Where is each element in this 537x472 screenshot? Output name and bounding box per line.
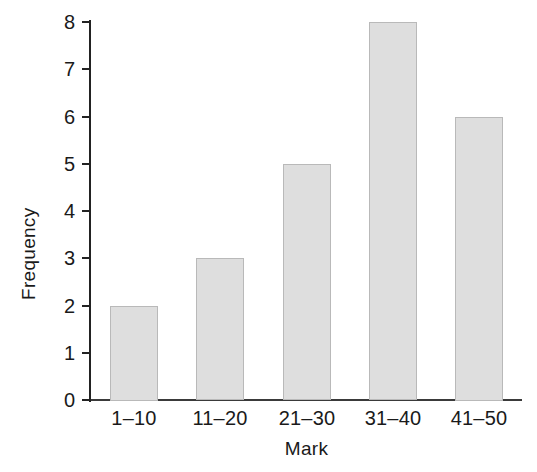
y-axis-tick-label: 5: [35, 154, 75, 174]
y-axis-tick-mark: [82, 257, 91, 259]
y-axis-tick-mark: [82, 163, 91, 165]
y-axis-tick-mark: [82, 116, 91, 118]
y-axis-tick-label: 2: [35, 296, 75, 316]
bar: [283, 164, 331, 400]
y-axis-tick-mark: [82, 210, 91, 212]
y-axis-tick-label: 1: [35, 343, 75, 363]
y-axis-tick-label: 7: [35, 59, 75, 79]
y-axis-tick-label: 3: [35, 248, 75, 268]
y-axis-tick-mark: [82, 399, 91, 401]
x-axis-tick-label: 41–50: [429, 406, 529, 430]
y-axis-tick-mark: [82, 305, 91, 307]
y-axis-title: Frequency: [16, 100, 42, 300]
bar: [196, 258, 244, 400]
y-axis-tick-label: 6: [35, 107, 75, 127]
bar: [110, 306, 158, 401]
y-axis-tick-label: 0: [35, 390, 75, 410]
bar: [369, 22, 417, 400]
x-axis-title: Mark: [91, 438, 522, 460]
y-axis-tick-mark: [82, 68, 91, 70]
x-axis-tick-label: 31–40: [343, 406, 443, 430]
y-axis-tick-mark: [82, 352, 91, 354]
y-axis-tick-label: 4: [35, 201, 75, 221]
x-axis-tick-label: 21–30: [257, 406, 357, 430]
y-axis-tick-mark: [82, 21, 91, 23]
x-axis-tick-label: 11–20: [170, 406, 270, 430]
y-axis-tick-label: 8: [35, 12, 75, 32]
bar-chart: Frequency 012345678 1–1011–2021–3031–404…: [0, 0, 537, 472]
x-axis-tick-label: 1–10: [84, 406, 184, 430]
bar: [455, 117, 503, 401]
